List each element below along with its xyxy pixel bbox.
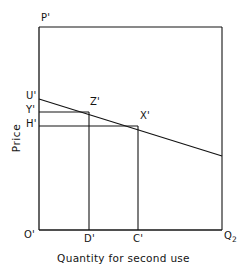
x-axis-title: Quantity for second use bbox=[0, 252, 247, 264]
y-axis-title: Price bbox=[10, 108, 22, 168]
label-o-prime: O' bbox=[24, 230, 35, 240]
demand-curve bbox=[39, 99, 222, 156]
label-d-prime: D' bbox=[84, 234, 95, 244]
label-q2-base: Q bbox=[224, 230, 232, 241]
plot-area bbox=[0, 0, 247, 273]
label-q2: Q2 bbox=[224, 231, 237, 244]
label-x-prime: X' bbox=[140, 111, 150, 121]
label-z-prime: Z' bbox=[90, 97, 100, 107]
economics-demand-diagram: P' U' Y' H' Z' X' O' D' C' Q2 Price Quan… bbox=[0, 0, 247, 273]
label-p-prime: P' bbox=[41, 13, 50, 23]
label-q2-subscript: 2 bbox=[232, 235, 237, 244]
label-h-prime: H' bbox=[26, 119, 37, 129]
label-c-prime: C' bbox=[133, 234, 143, 244]
label-u-prime: U' bbox=[26, 91, 36, 101]
label-y-prime: Y' bbox=[26, 105, 35, 115]
